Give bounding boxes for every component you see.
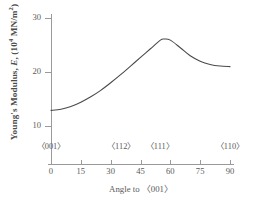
- chart-figure: Young's Modulus, E, (104 MN/m2) 102030 0…: [0, 0, 258, 202]
- data-curve-layer: [0, 0, 258, 202]
- x-axis-title: Angle to 〈001〉: [48, 182, 234, 195]
- modulus-curve: [51, 39, 230, 110]
